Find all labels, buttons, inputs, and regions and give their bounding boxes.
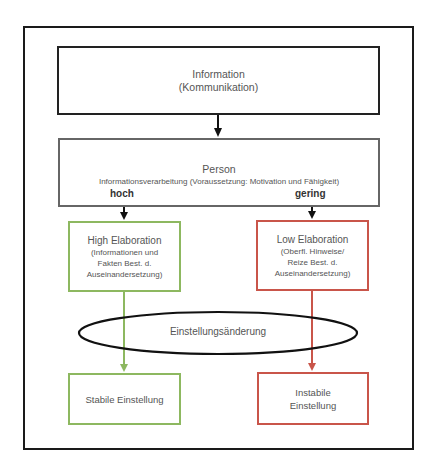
stable-attitude-label: Stabile Einstellung [85, 393, 163, 406]
low-elaboration-desc-3: Auseinandersetzung) [275, 268, 351, 279]
unstable-attitude-node: Instabile Einstellung [257, 372, 369, 425]
information-subtitle: (Kommunikation) [179, 81, 258, 94]
low-elaboration-node: Low Elaboration (Oberfl. Hinweise/ Reize… [256, 220, 369, 291]
high-elaboration-desc-1: (Informationen und [91, 247, 158, 258]
attitude-change-label: Einstellungsänderung [78, 325, 358, 339]
level-high-label: hoch [110, 188, 134, 199]
high-elaboration-node: High Elaboration (Informationen und Fakt… [68, 221, 181, 292]
high-elaboration-title: High Elaboration [88, 234, 162, 247]
information-title: Information [192, 68, 245, 81]
unstable-attitude-line-1: Instabile [295, 386, 330, 399]
person-title: Person [202, 163, 235, 176]
stable-attitude-node: Stabile Einstellung [68, 373, 181, 425]
level-low-label: gering [295, 188, 326, 199]
high-elaboration-desc-2: Fakten Best. d. [98, 258, 152, 269]
low-elaboration-desc-2: Reize Best. d. [288, 257, 338, 268]
low-elaboration-title: Low Elaboration [277, 233, 349, 246]
person-subtitle: Informationsverarbeitung (Voraussetzung:… [99, 176, 339, 187]
high-elaboration-desc-3: Auseinandersetzung) [87, 269, 163, 280]
unstable-attitude-line-2: Einstellung [290, 399, 336, 412]
low-elaboration-desc-1: (Oberfl. Hinweise/ [281, 246, 345, 257]
person-node: Person Informationsverarbeitung (Vorauss… [58, 138, 380, 207]
information-node: Information (Kommunikation) [57, 46, 380, 115]
